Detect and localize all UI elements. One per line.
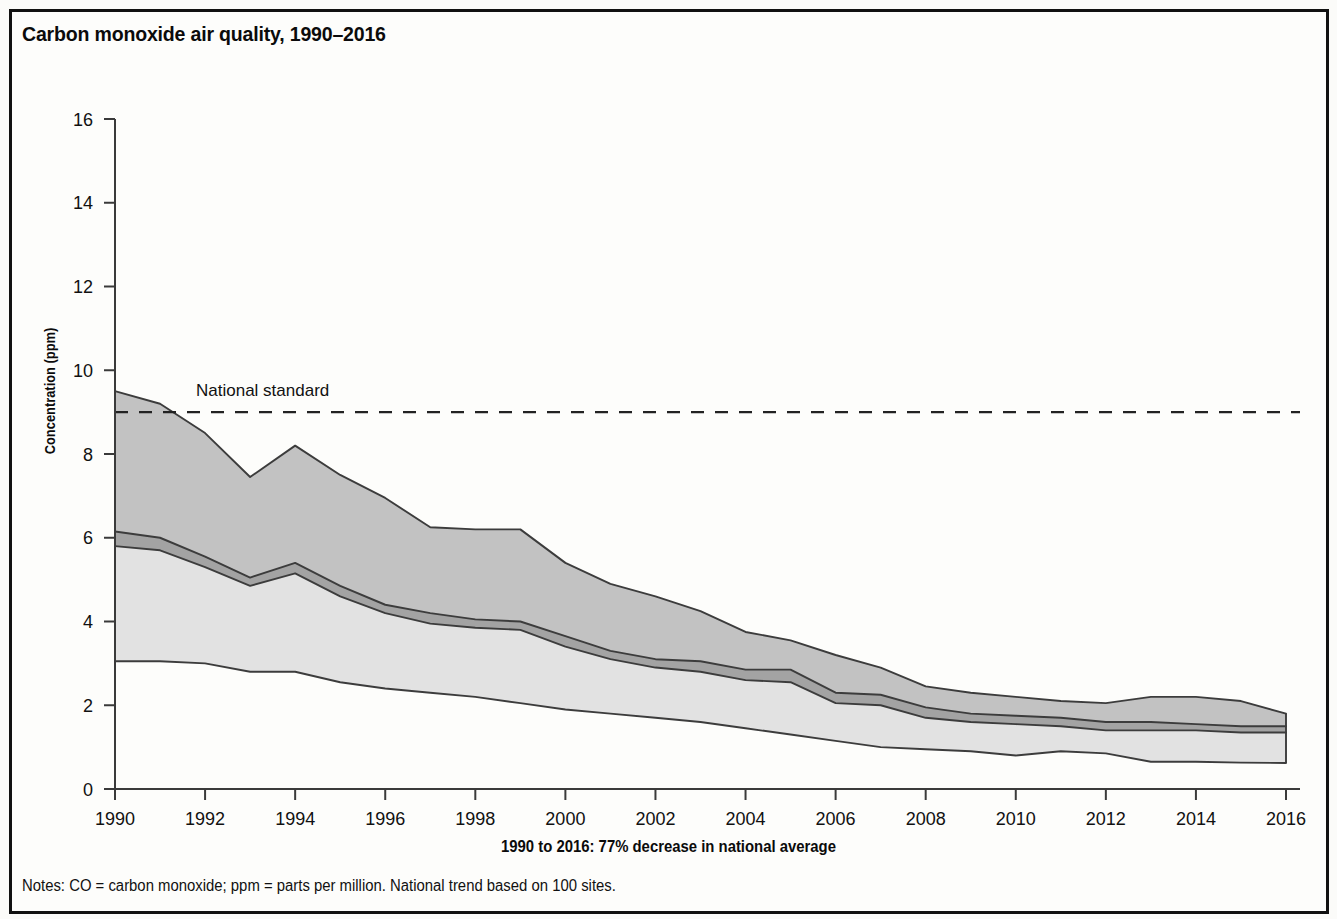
x-tick-label: 1994 (275, 809, 315, 829)
x-tick-label: 2008 (906, 809, 946, 829)
plot-area: 0246810121416199019921994199619982000200… (0, 0, 1337, 919)
x-tick-label: 1990 (95, 809, 135, 829)
area-bands (115, 391, 1286, 763)
x-tick-label: 2012 (1086, 809, 1126, 829)
y-tick-label: 0 (83, 780, 93, 800)
x-tick-label: 2000 (545, 809, 585, 829)
x-tick-label: 2006 (816, 809, 856, 829)
figure-panel: Carbon monoxide air quality, 1990–2016 C… (0, 0, 1337, 919)
y-tick-label: 4 (83, 612, 93, 632)
y-tick-label: 8 (83, 445, 93, 465)
x-tick-label: 2002 (635, 809, 675, 829)
y-tick-label: 10 (73, 361, 93, 381)
y-tick-label: 6 (83, 528, 93, 548)
x-tick-label: 1996 (365, 809, 405, 829)
chart-svg: 0246810121416199019921994199619982000200… (0, 0, 1337, 919)
x-tick-label: 2016 (1266, 809, 1306, 829)
y-tick-label: 14 (73, 193, 93, 213)
y-tick-label: 16 (73, 110, 93, 130)
y-tick-label: 12 (73, 277, 93, 297)
x-tick-label: 2014 (1176, 809, 1216, 829)
x-tick-label: 1992 (185, 809, 225, 829)
x-tick-label: 2010 (996, 809, 1036, 829)
y-tick-label: 2 (83, 696, 93, 716)
x-tick-label: 1998 (455, 809, 495, 829)
x-tick-label: 2004 (726, 809, 766, 829)
